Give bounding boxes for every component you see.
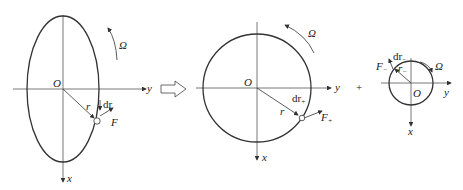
x-axis-label: x — [407, 125, 413, 137]
mass-point — [299, 115, 305, 121]
y-axis-label: y — [443, 86, 449, 98]
panel-ellipse: O y x Ω r dr F — [13, 15, 152, 184]
force-label: F — [110, 116, 118, 128]
origin-label: O — [413, 87, 421, 99]
radius-label: r — [86, 100, 91, 112]
rotation-arrow-icon — [108, 28, 117, 60]
y-axis-label: y — [334, 81, 340, 93]
diagram-canvas: O y x Ω r dr F O y x Ω r dr+ F+ + O y — [0, 0, 463, 190]
panel-circle-plus: O y x Ω r dr+ F+ — [196, 22, 340, 163]
force-label: F+ — [320, 111, 333, 125]
transform-arrow-icon — [161, 81, 186, 97]
rotation-label: Ω — [308, 27, 316, 39]
origin-label: O — [244, 76, 252, 88]
force-vector — [304, 111, 322, 118]
dr-label: dr+ — [292, 92, 305, 106]
x-axis-label: x — [66, 172, 72, 184]
origin-label: O — [53, 77, 61, 89]
force-label: F− — [375, 60, 388, 74]
rotation-label: Ω — [119, 39, 127, 51]
dr-label: dr — [103, 98, 113, 110]
rotation-label: Ω — [435, 60, 443, 72]
x-axis-label: x — [261, 151, 267, 163]
plus-operator: + — [356, 81, 362, 93]
mass-point — [94, 118, 100, 124]
dr-label: dr− — [393, 50, 406, 64]
radius-label: r — [280, 105, 285, 117]
y-axis-label: y — [146, 82, 152, 94]
panel-circle-minus: O y x Ω r− dr− F− — [375, 50, 451, 137]
radius-label: r− — [398, 62, 407, 76]
